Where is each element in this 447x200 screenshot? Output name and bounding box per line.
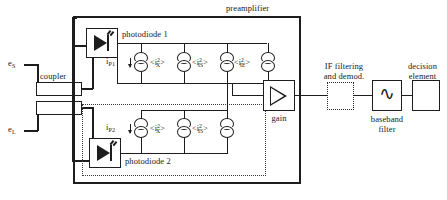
wire-gain-out bbox=[294, 95, 330, 96]
noise-source-top-x bbox=[177, 52, 191, 72]
bus-middle bbox=[117, 83, 268, 84]
lead-ip2-bot bbox=[141, 137, 142, 154]
wire-signal-in-h bbox=[24, 64, 38, 66]
lead-botx-top bbox=[184, 110, 185, 119]
wire-if-to-baseband bbox=[353, 95, 373, 96]
ip1-label: iP1 bbox=[106, 57, 115, 68]
decision-element-label: decisionelement bbox=[400, 62, 445, 81]
lead-topx-top bbox=[184, 43, 185, 53]
figure-canvas: eS eL coupler preamplifier photodiode 1 bbox=[0, 0, 447, 200]
bus-top bbox=[117, 43, 267, 44]
lead-topie-top bbox=[268, 43, 269, 53]
lead-botis-top bbox=[227, 110, 228, 119]
wire-lo-in-h bbox=[24, 130, 38, 132]
bus-bottom bbox=[120, 153, 228, 154]
wire-signal-in-v bbox=[37, 64, 39, 84]
bus-bottom-left-cap bbox=[120, 153, 121, 155]
current-source-ip2 bbox=[134, 118, 148, 138]
coupler-label: coupler bbox=[40, 72, 66, 82]
noise-label-bottom-x: <i2X> bbox=[150, 123, 165, 134]
if-filter-label: IF filteringand demod. bbox=[311, 62, 377, 81]
baseband-filter-label: basebandfilter bbox=[365, 115, 409, 134]
noise-label-top-ie: <i2IE> bbox=[234, 57, 250, 68]
current-source-ip1 bbox=[134, 52, 148, 72]
local-oscillator-field-label: eL bbox=[8, 125, 16, 136]
gain-label: gain bbox=[263, 114, 295, 124]
noise-label-top-x: <i2X> bbox=[150, 57, 165, 68]
bus-left-riser bbox=[117, 43, 118, 84]
noise-source-bottom-x bbox=[177, 118, 191, 138]
ip2-arrow-icon bbox=[130, 124, 131, 133]
bus-lower-top bbox=[141, 110, 228, 111]
noise-source-top-is bbox=[220, 52, 234, 72]
lead-botis-bot bbox=[227, 137, 228, 154]
if-filter-box bbox=[327, 82, 354, 110]
noise-label-bottom-is: <i2IS> bbox=[192, 123, 208, 134]
decision-element-box bbox=[412, 80, 440, 111]
lead-botx-bot bbox=[184, 137, 185, 154]
photodiode-1-label: photodiode 1 bbox=[122, 30, 168, 40]
ip2-label: iP2 bbox=[106, 123, 115, 134]
sine-wave-icon: ∿ bbox=[379, 84, 395, 103]
ip1-arrow-icon bbox=[130, 58, 131, 67]
signal-field-label: eS bbox=[8, 59, 15, 70]
photodiode-1-symbol bbox=[86, 28, 118, 58]
photodiode-2-symbol bbox=[89, 138, 121, 168]
lead-ip2-top bbox=[141, 110, 142, 119]
lead-ip1-top bbox=[141, 43, 142, 53]
noise-label-top-is: <i2IS> bbox=[192, 57, 208, 68]
lead-topis-top bbox=[227, 43, 228, 53]
preamplifier-label: preamplifier bbox=[226, 4, 269, 14]
noise-source-top-ie bbox=[261, 52, 275, 72]
bus-lower-riser bbox=[227, 83, 228, 111]
photodiode-2-label: photodiode 2 bbox=[125, 157, 171, 167]
wire-node-left-drop bbox=[232, 83, 233, 96]
noise-source-bottom-is bbox=[220, 118, 234, 138]
